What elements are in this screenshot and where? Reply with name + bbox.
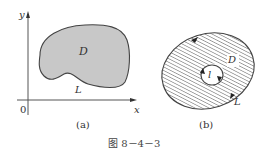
y-axis-label: y	[19, 10, 25, 20]
region-d-label-a: D	[79, 46, 88, 57]
figure-8-4-3: y 0 x D L (a) D l L (b) 图 8－4－3	[0, 0, 266, 156]
x-axis-arrow-icon	[130, 98, 137, 102]
sublabel-b: (b)	[199, 120, 213, 130]
y-axis-arrow-icon	[26, 11, 30, 18]
region-d-label-b: D	[228, 55, 236, 65]
panel-a	[17, 11, 137, 115]
sublabel-a: (a)	[76, 120, 90, 130]
inner-boundary-l	[201, 65, 223, 85]
figure-canvas	[0, 0, 266, 156]
x-axis-label: x	[134, 105, 140, 115]
boundary-l-label-a: L	[75, 85, 82, 95]
outer-boundary-label: L	[234, 97, 241, 107]
figure-caption: 图 8－4－3	[108, 139, 160, 149]
inner-boundary-label: l	[208, 70, 211, 80]
origin-label: 0	[20, 105, 26, 115]
